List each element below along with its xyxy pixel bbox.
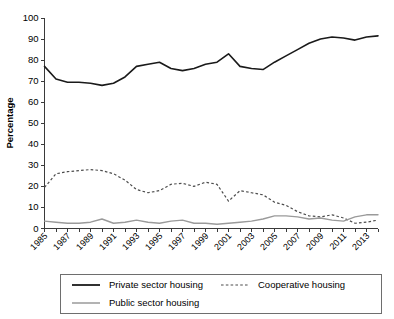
y-axis-tick-label: 70 bbox=[28, 75, 39, 86]
x-axis-ticks bbox=[45, 229, 379, 233]
x-axis-tick-label: 1995 bbox=[143, 231, 164, 252]
x-axis-tick-label: 1997 bbox=[166, 231, 187, 252]
x-axis-tick-label: 2013 bbox=[350, 231, 371, 252]
chart-container: 0102030405060708090100 19851987198919911… bbox=[0, 0, 394, 319]
series-line-public-sector-housing bbox=[45, 215, 379, 224]
legend-label-public-sector-housing: Public sector housing bbox=[109, 297, 199, 308]
y-axis-ticks bbox=[41, 18, 45, 229]
x-axis-tick-label: 2005 bbox=[258, 231, 279, 252]
y-axis-tick-label: 30 bbox=[28, 159, 39, 170]
y-axis-tick-label: 80 bbox=[28, 54, 39, 65]
legend-label-private-sector-housing: Private sector housing bbox=[109, 279, 203, 290]
legend: Private sector housing Cooperative housi… bbox=[61, 275, 382, 314]
x-axis-tick-label: 2009 bbox=[304, 231, 325, 252]
x-axis-tick-label: 2007 bbox=[281, 231, 302, 252]
x-axis-tick-label: 1989 bbox=[74, 231, 95, 252]
x-axis-tick-label: 1987 bbox=[51, 231, 72, 252]
y-axis-tick-label: 50 bbox=[28, 117, 39, 128]
y-axis-tick-label: 20 bbox=[28, 180, 39, 191]
y-axis-tick-label: 60 bbox=[28, 96, 39, 107]
line-chart: 0102030405060708090100 19851987198919911… bbox=[0, 0, 394, 319]
x-axis-tick-label: 1999 bbox=[189, 231, 210, 252]
legend-label-cooperative-housing: Cooperative housing bbox=[258, 279, 345, 290]
x-axis-tick-labels: 1985198719891991199319951997199920012003… bbox=[28, 231, 371, 252]
x-axis-tick-label: 2003 bbox=[235, 231, 256, 252]
y-axis-tick-label: 90 bbox=[28, 33, 39, 44]
y-axis-tick-label: 40 bbox=[28, 138, 39, 149]
x-axis-tick-label: 2011 bbox=[328, 231, 349, 252]
y-axis-tick-label: 0 bbox=[33, 223, 38, 234]
y-axis-tick-label: 100 bbox=[23, 12, 39, 23]
y-axis-tick-label: 10 bbox=[28, 201, 39, 212]
x-axis-tick-label: 1985 bbox=[28, 231, 49, 252]
y-axis-title: Percentage bbox=[4, 97, 15, 148]
series-line-private-sector-housing bbox=[45, 36, 379, 85]
series-line-cooperative-housing bbox=[45, 170, 379, 224]
x-axis-tick-label: 2001 bbox=[212, 231, 233, 252]
y-axis-tick-labels: 0102030405060708090100 bbox=[23, 12, 39, 234]
x-axis-tick-label: 1991 bbox=[97, 231, 118, 252]
x-axis-tick-label: 1993 bbox=[120, 231, 141, 252]
